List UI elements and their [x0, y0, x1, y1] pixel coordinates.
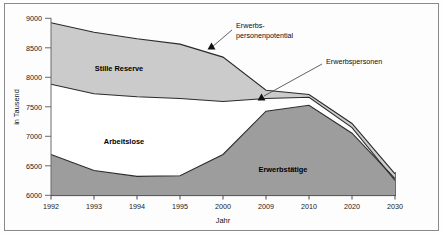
- y-tick-label-7500: 7500: [26, 103, 42, 112]
- y-axis-title: in Tausend: [12, 89, 21, 125]
- annotation-leader-personen: [264, 64, 322, 96]
- x-tick-label-1994: 1994: [129, 202, 145, 211]
- annotation-leader-potential: [212, 30, 232, 47]
- annotation-text-potential-line1: Erwerbs-: [236, 21, 265, 30]
- y-tick-label-9000: 9000: [26, 14, 42, 23]
- area-chart: 9000 8500 8000 7500 7000 6500 6000 1992 …: [0, 0, 444, 236]
- y-tick-label-6000: 6000: [26, 191, 42, 200]
- x-tick-marks: [51, 196, 395, 200]
- band-label-arbeitslose: Arbeitslose: [104, 137, 144, 146]
- y-tick-marks: [45, 18, 51, 195]
- x-tick-label-1993: 1993: [86, 202, 102, 211]
- y-tick-label-6500: 6500: [26, 162, 42, 171]
- x-tick-label-2020: 2020: [344, 202, 360, 211]
- band-label-stille-reserve: Stille Reserve: [95, 64, 143, 73]
- annotation-marker-potential-triangle-up-icon: [208, 43, 216, 50]
- x-tick-label-2000: 2000: [215, 202, 231, 211]
- y-tick-label-8500: 8500: [26, 44, 42, 53]
- x-tick-label-2009: 2009: [258, 202, 274, 211]
- x-tick-label-2030: 2030: [387, 202, 403, 211]
- x-tick-label-1992: 1992: [43, 202, 59, 211]
- band-label-erwerbstaetige: Erwerbstätige: [259, 165, 308, 174]
- annotation-text-personen: Erwerbspersonen: [326, 57, 382, 66]
- screenshot-root: 9000 8500 8000 7500 7000 6500 6000 1992 …: [0, 0, 444, 236]
- y-tick-label-7000: 7000: [26, 132, 42, 141]
- y-tick-label-8000: 8000: [26, 73, 42, 82]
- x-tick-label-1995: 1995: [172, 202, 188, 211]
- x-axis-title: Jahr: [216, 216, 231, 225]
- x-tick-label-2010: 2010: [301, 202, 317, 211]
- annotation-text-potential-line2: personenpotential: [236, 31, 294, 40]
